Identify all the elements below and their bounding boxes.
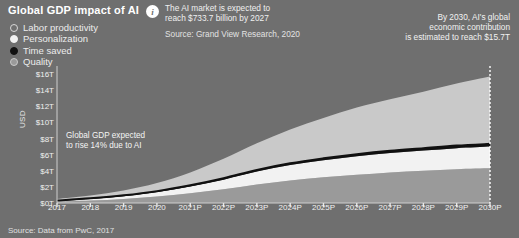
y-tick-label: $4T	[40, 166, 54, 175]
x-tick-label: 2023P	[245, 203, 268, 212]
legend-item-time-saved[interactable]: Time saved	[10, 45, 98, 57]
legend: Labor productivity Personalization Time …	[10, 22, 98, 68]
legend-marker-icon	[10, 47, 18, 55]
info-text-block: The AI market is expected to reach $733.…	[165, 4, 300, 40]
y-tick-label: $6T	[40, 150, 54, 159]
annotation-line-2: to rise 14% due to AI	[66, 141, 145, 151]
callout-line-2: economic contribution	[405, 22, 510, 32]
callout-2030: By 2030, AI's global economic contributi…	[405, 12, 510, 42]
x-tick-label: 2018	[81, 203, 99, 212]
y-tick-label: $10T	[36, 118, 54, 127]
x-tick-label: 2021P	[179, 203, 202, 212]
y-tick-label: $2T	[40, 182, 54, 191]
y-tick-label: $12T	[36, 102, 54, 111]
info-line-2: reach $733.7 billion by 2027	[165, 14, 300, 24]
x-tick-label: 2026P	[345, 203, 368, 212]
legend-item-label: Labor productivity	[23, 23, 98, 33]
source-footer: Source: Data from PwC, 2017	[8, 226, 114, 235]
x-axis-ticks: 20172018201920202021P2022P2023P2024P2025…	[0, 203, 519, 215]
info-icon[interactable]: i	[146, 5, 159, 18]
x-tick-label: 2017	[48, 203, 66, 212]
x-tick-label: 2030P	[478, 203, 501, 212]
x-tick-label: 2025P	[312, 203, 335, 212]
x-tick-label: 2029P	[445, 203, 468, 212]
annotation-line-1: Global GDP expected	[66, 131, 145, 141]
y-tick-label: $16T	[36, 70, 54, 79]
page-title: Global GDP impact of AI	[8, 4, 139, 16]
x-tick-label: 2024P	[279, 203, 302, 212]
x-tick-label: 2027P	[379, 203, 402, 212]
callout-line-3: is estimated to reach $15.7T	[405, 32, 510, 42]
chart-annotation: Global GDP expected to rise 14% due to A…	[66, 131, 145, 151]
callout-line-1: By 2030, AI's global	[405, 12, 510, 22]
info-source: Source: Grand View Research, 2020	[165, 30, 300, 40]
legend-marker-icon	[10, 35, 18, 43]
infographic-root: Global GDP impact of AI Labor productivi…	[0, 0, 519, 238]
legend-item-personalization[interactable]: Personalization	[10, 34, 98, 46]
y-tick-label: $14T	[36, 86, 54, 95]
y-axis-ticks: $0T$2T$4T$6T$8T$10T$12T$14T$16T	[26, 66, 54, 202]
y-tick-label: $8T	[40, 134, 54, 143]
legend-item-label: Time saved	[23, 46, 72, 56]
legend-item-labor-productivity[interactable]: Labor productivity	[10, 22, 98, 34]
legend-marker-icon	[10, 24, 18, 32]
legend-item-label: Personalization	[23, 34, 88, 44]
info-callout: i The AI market is expected to reach $73…	[146, 4, 300, 40]
x-tick-label: 2022P	[212, 203, 235, 212]
x-tick-label: 2019	[115, 203, 133, 212]
x-tick-label: 2020	[148, 203, 166, 212]
x-tick-label: 2028P	[412, 203, 435, 212]
